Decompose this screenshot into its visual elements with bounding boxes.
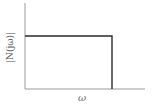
magnitude-response-curve: [25, 36, 112, 89]
y-axis-label: |N(jω)|: [5, 33, 15, 63]
x-axis-label: ω: [78, 92, 86, 103]
diagram-canvas: [0, 0, 152, 106]
